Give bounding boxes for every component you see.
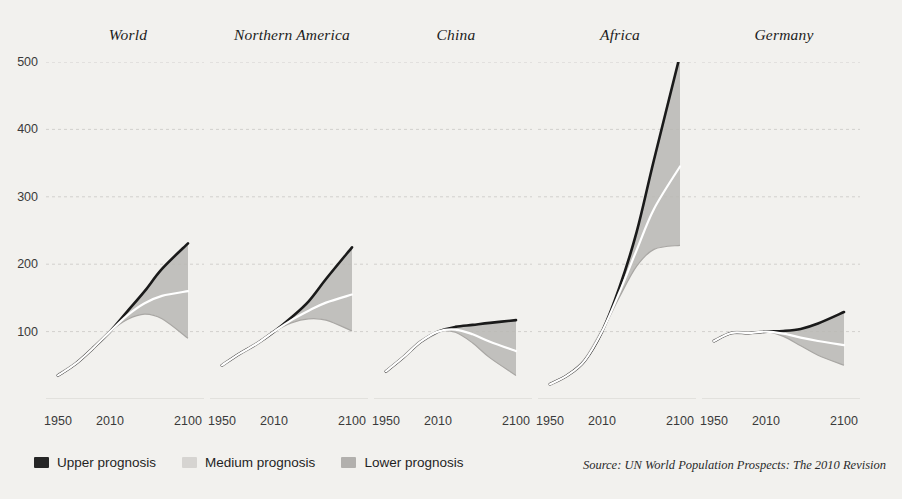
chart-panel-germany: Germany195020102100: [702, 0, 866, 460]
x-tick-label: 2010: [260, 414, 288, 428]
chart-panel-northern-america: Northern America195020102100: [210, 0, 374, 460]
chart-legend: Upper prognosisMedium prognosisLower pro…: [34, 455, 489, 470]
x-tick-label: 1950: [208, 414, 236, 428]
x-tick-label: 1950: [372, 414, 400, 428]
lower-prognosis-line: [550, 245, 680, 384]
lower-prognosis-line: [222, 318, 352, 365]
x-tick-label: 2010: [588, 414, 616, 428]
panel-plot-area: [46, 62, 210, 399]
panel-title: Germany: [702, 26, 866, 44]
x-tick-label: 2010: [96, 414, 124, 428]
legend-swatch-icon: [341, 457, 356, 468]
legend-lower: Lower prognosis: [341, 455, 463, 470]
x-tick-label: 2100: [830, 414, 858, 428]
prognosis-band: [550, 62, 680, 384]
y-tick-label: 200: [17, 257, 38, 271]
panel-plot-area: [210, 62, 374, 399]
source-note: Source: UN World Population Prospects: T…: [583, 458, 886, 473]
legend-upper: Upper prognosis: [34, 455, 156, 470]
panel-title: Africa: [538, 26, 702, 44]
x-tick-label: 1950: [44, 414, 72, 428]
x-tick-label: 2010: [424, 414, 452, 428]
chart-panel-world: World195020102100: [46, 0, 210, 460]
panel-title: World: [46, 26, 210, 44]
x-tick-label: 1950: [700, 414, 728, 428]
chart-panel-china: China195020102100: [374, 0, 538, 460]
panel-title: Northern America: [210, 26, 374, 44]
legend-label: Medium prognosis: [205, 455, 315, 470]
prognosis-band: [222, 247, 352, 365]
x-tick-label: 2010: [752, 414, 780, 428]
x-tick-label: 2100: [666, 414, 694, 428]
y-axis: 100200300400500: [0, 62, 46, 402]
legend-medium: Medium prognosis: [182, 455, 315, 470]
legend-swatch-icon: [182, 457, 197, 468]
legend-label: Upper prognosis: [57, 455, 156, 470]
medium-prognosis-line: [550, 166, 680, 384]
panel-title: China: [374, 26, 538, 44]
legend-label: Lower prognosis: [364, 455, 463, 470]
x-tick-label: 2100: [174, 414, 202, 428]
historical-line: [550, 332, 602, 385]
legend-swatch-icon: [34, 457, 49, 468]
y-tick-label: 500: [17, 55, 38, 69]
panel-plot-area: [538, 62, 702, 399]
y-tick-label: 400: [17, 122, 38, 136]
panel-plot-area: [702, 62, 866, 399]
lower-prognosis-line: [58, 314, 188, 375]
chart-panel-africa: Africa195020102100: [538, 0, 702, 460]
x-tick-label: 2100: [502, 414, 530, 428]
x-tick-label: 1950: [536, 414, 564, 428]
x-tick-label: 2100: [338, 414, 366, 428]
panel-plot-area: [374, 62, 538, 399]
y-tick-label: 300: [17, 190, 38, 204]
y-tick-label: 100: [17, 325, 38, 339]
